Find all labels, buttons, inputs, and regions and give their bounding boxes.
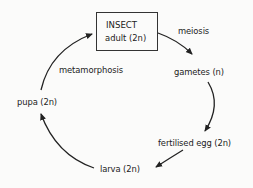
transition-label-meiosis: meiosis [178, 27, 209, 35]
stage-fertilised-egg: fertilised egg (2n) [158, 139, 231, 147]
transition-label-metamorphosis: metamorphosis [59, 66, 123, 74]
adult-ploidy: adult (2n) [105, 34, 146, 42]
adult-title: INSECT [106, 21, 137, 30]
arrow-pupa-to-adult [41, 34, 92, 90]
stage-adult-box: INSECT adult (2n) [96, 12, 158, 51]
arrow-egg-to-larva [156, 150, 183, 167]
stage-larva: larva (2n) [100, 165, 140, 173]
arrow-larva-to-pupa [41, 114, 94, 168]
arrow-gametes-to-egg [205, 82, 214, 131]
stage-gametes: gametes (n) [174, 68, 224, 76]
stage-pupa: pupa (2n) [17, 98, 57, 106]
arrow-adult-to-gametes [158, 33, 192, 54]
